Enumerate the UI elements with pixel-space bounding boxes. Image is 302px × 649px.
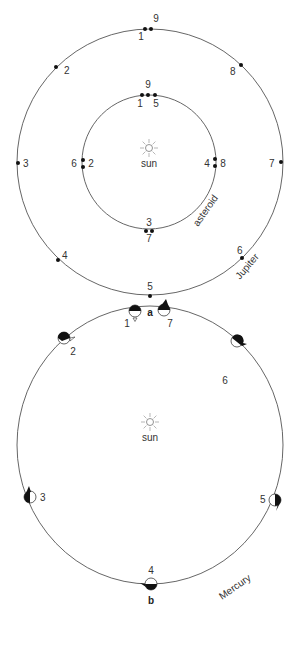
asteroid-position-label: 1 [137,98,143,109]
asteroid-position-label: 4 [204,158,210,169]
jupiter-position-label: 8 [230,66,236,77]
jupiter-position-dot [54,65,58,69]
panel-a: sun 1 9 2 8 3 7 4 5 6 [16,13,283,318]
jupiter-position-label: 6 [237,245,243,256]
jupiter-position-label: 5 [147,281,153,292]
jupiter-positions: 1 9 2 8 3 7 4 5 6 [16,13,283,298]
jupiter-position-dot [16,161,20,165]
jupiter-position-dot [148,294,152,298]
asteroid-position-label: 8 [220,158,226,169]
mercury-phase-icon [58,332,75,344]
mercury-orbit-label: Mercury [217,572,253,602]
asteroid-position-label: 7 [146,233,152,244]
sun-icon [141,413,159,431]
mercury-position-label: 6 [222,375,228,386]
sun-label: sun [142,432,158,443]
mercury-position-label: 4 [148,565,154,576]
panel-b-label: b [148,595,154,606]
asteroid-position-dot [146,93,150,97]
asteroid-position-dot [81,165,85,169]
sun-label: sun [141,158,157,169]
mercury-orbit [17,306,283,584]
mercury-position-label: 3 [40,492,46,503]
mercury-position-label: 5 [260,494,266,505]
mercury-phase-icon [140,578,157,590]
mercury-phase-icon [158,299,170,316]
jupiter-position-dot [240,256,244,260]
sun-icon [140,139,158,157]
asteroid-position-dot [81,158,85,162]
asteroid-position-label: 5 [153,98,159,109]
asteroid-position-dot [153,93,157,97]
asteroid-position-label: 2 [88,158,94,169]
jupiter-position-label: 3 [23,158,29,169]
jupiter-position-dot [56,258,60,262]
asteroid-position-label: 9 [145,79,151,90]
asteroid-position-dot [140,93,144,97]
panel-b: sun 1 7 2 6 [17,299,283,606]
mercury-phase-icon [231,334,247,347]
jupiter-position-dot [279,160,283,164]
mercury-phase-icon [129,305,141,322]
asteroid-position-label: 6 [71,158,77,169]
jupiter-position-label: 7 [269,158,275,169]
mercury-phase-icon [24,486,36,503]
jupiter-position-dot [149,27,153,31]
orbit-diagrams: sun 1 9 2 8 3 7 4 5 6 [0,0,302,649]
jupiter-position-label: 1 [138,31,144,42]
mercury-position-label: 1 [124,318,130,329]
jupiter-position-label: 2 [64,65,70,76]
mercury-position-label: 7 [167,318,173,329]
mercury-phase-icon [269,494,281,511]
panel-a-label: a [147,307,153,318]
jupiter-position-dot [239,63,243,67]
asteroid-position-dot [213,157,217,161]
jupiter-position-label: 4 [62,250,68,261]
jupiter-position-label: 9 [153,13,159,24]
asteroid-position-label: 3 [146,217,152,228]
mercury-position-label: 2 [70,346,76,357]
asteroid-position-dot [213,164,217,168]
